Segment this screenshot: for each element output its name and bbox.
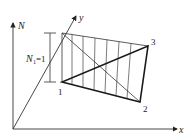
x-axis-label: x xyxy=(178,124,184,135)
n-axis-label: N xyxy=(17,20,26,31)
dimension-label: N 1 =1 xyxy=(25,53,46,65)
hatch-lines xyxy=(72,35,131,99)
node-1-label: 1 xyxy=(58,87,63,97)
dimension-bar xyxy=(44,33,56,82)
element-triangle xyxy=(62,46,148,102)
node-2-label: 2 xyxy=(143,104,148,114)
y-axis-label: y xyxy=(78,12,84,23)
diagram-canvas: N x y 1 2 3 N 1 =1 xyxy=(0,0,187,140)
svg-text:=1: =1 xyxy=(36,54,46,64)
shape-function-diagram: N x y 1 2 3 N 1 =1 xyxy=(0,0,187,140)
node-3-label: 3 xyxy=(151,37,156,47)
